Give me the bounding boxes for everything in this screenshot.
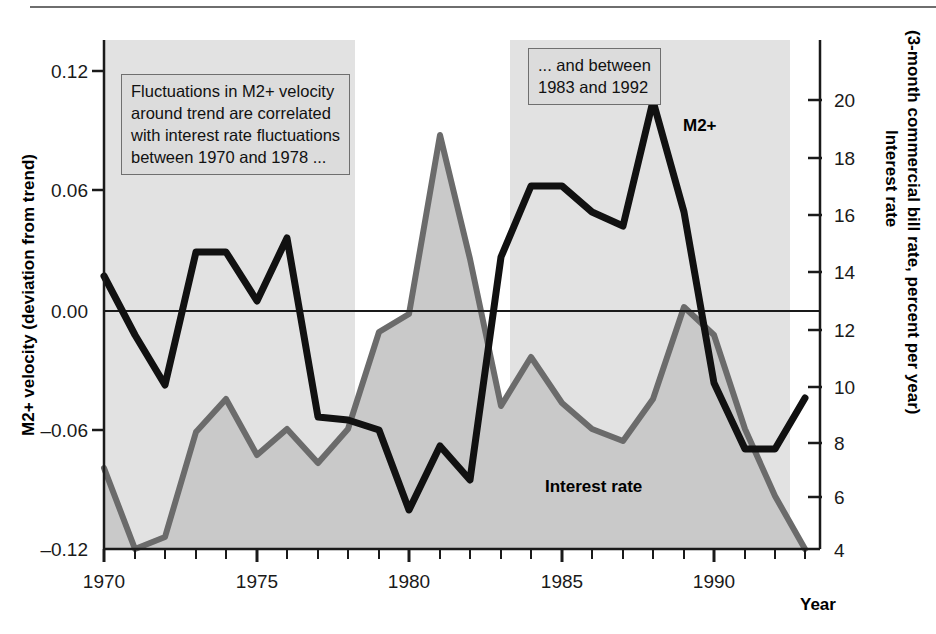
ytick-label-right-4: 12 <box>834 320 855 341</box>
x-axis-title: Year <box>800 595 836 614</box>
ytick-label-right-5: 14 <box>834 262 856 283</box>
ytick-label-right-1: 6 <box>834 487 845 508</box>
right-tick-labels: 20 18 16 14 12 10 8 6 4 <box>834 90 856 561</box>
figure-root: 0.12 0.06 0.00 –0.06 –0.12 20 18 16 14 1… <box>0 0 936 634</box>
ytick-label-right-6: 16 <box>834 205 855 226</box>
annotation-2-line-1: 1983 and 1992 <box>538 76 651 98</box>
xtick-label-1985: 1985 <box>541 571 583 592</box>
left-tick-labels: 0.12 0.06 0.00 –0.06 –0.12 <box>40 61 88 560</box>
x-tick-labels: 1970 1975 1980 1985 1990 <box>83 571 735 592</box>
annotation-1-line-3: between 1970 and 1978 ... <box>131 146 340 168</box>
ytick-label-right-2: 8 <box>834 433 845 454</box>
annotation-box-1970-1978: Fluctuations in M2+ velocity around tren… <box>121 74 350 175</box>
ytick-label-left-4: 0.12 <box>51 61 88 82</box>
ytick-label-left-2: 0.00 <box>51 301 88 322</box>
annotation-1-line-1: around trend are correlated <box>131 102 340 124</box>
annotation-box-1983-1992: ... and between 1983 and 1992 <box>528 48 661 105</box>
y-axis-title-right-line1: Interest rate <box>882 130 901 227</box>
left-axis <box>92 40 104 549</box>
annotation-1-line-0: Fluctuations in M2+ velocity <box>131 80 340 102</box>
y-axis-title-left: M2+ velocity (deviation from trend) <box>19 154 38 436</box>
ytick-label-left-1: –0.06 <box>40 420 88 441</box>
xtick-label-1970: 1970 <box>83 571 125 592</box>
ytick-label-right-7: 18 <box>834 148 855 169</box>
ytick-label-right-3: 10 <box>834 377 855 398</box>
y-axis-title-right-line2: (3-month commercial bill rate, percent p… <box>904 30 923 415</box>
series-label-interest-rate: Interest rate <box>545 477 642 496</box>
xtick-label-1980: 1980 <box>388 571 430 592</box>
annotation-2-line-0: ... and between <box>538 54 651 76</box>
xtick-label-1975: 1975 <box>236 571 278 592</box>
xtick-label-1990: 1990 <box>693 571 735 592</box>
series-label-m2plus: M2+ <box>683 116 717 135</box>
ytick-label-right-8: 20 <box>834 90 855 111</box>
ytick-label-left-0: –0.12 <box>40 539 88 560</box>
x-axis <box>104 549 820 562</box>
right-axis <box>808 40 822 549</box>
ytick-label-left-3: 0.06 <box>51 180 88 201</box>
annotation-1-line-2: with interest rate fluctuations <box>131 124 340 146</box>
ytick-label-right-0: 4 <box>834 540 845 561</box>
